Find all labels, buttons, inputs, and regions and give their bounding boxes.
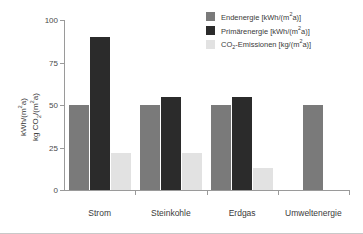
- y-axis-line: [64, 20, 65, 190]
- y-tick-label: 50: [49, 101, 58, 110]
- y-tick-label: 75: [49, 58, 58, 67]
- bar: [161, 97, 181, 191]
- y-axis-title: kWh/(m2a) kg CO2/(m2a): [17, 93, 42, 141]
- y-tick-mark: [60, 148, 64, 149]
- y-tick-mark: [60, 190, 64, 191]
- bar: [211, 105, 231, 190]
- y-axis-title-line-2: kg CO2/(m2a): [29, 93, 42, 141]
- plot-area: 0255075100 StromSteinkohleErdgasUmwelten…: [64, 20, 349, 190]
- y-tick-label: 100: [45, 16, 58, 25]
- category-label-strom: Strom: [88, 208, 111, 218]
- y-tick-mark: [60, 105, 64, 106]
- y-tick-mark: [60, 63, 64, 64]
- x-tick-mark: [207, 190, 208, 195]
- bar: [253, 168, 273, 190]
- category-label-erdgas: Erdgas: [229, 208, 256, 218]
- y-tick-label: 25: [49, 143, 58, 152]
- bar: [69, 105, 89, 190]
- bar: [303, 105, 323, 190]
- bar: [140, 105, 160, 190]
- x-tick-mark: [278, 190, 279, 195]
- bar-chart-figure: kWh/(m2a) kg CO2/(m2a) Endenergie [kWh/(…: [0, 0, 363, 234]
- y-tick-label: 0: [54, 186, 58, 195]
- bar: [90, 37, 110, 190]
- x-tick-mark: [135, 190, 136, 195]
- y-axis-title-line-1: kWh/(m2a): [17, 93, 29, 141]
- x-tick-mark: [349, 190, 350, 195]
- category-label-umweltenergie: Umweltenergie: [285, 208, 342, 218]
- y-tick-mark: [60, 20, 64, 21]
- category-label-steinkohle: Steinkohle: [151, 208, 191, 218]
- bar: [232, 97, 252, 191]
- bar: [111, 153, 131, 190]
- bar: [182, 153, 202, 190]
